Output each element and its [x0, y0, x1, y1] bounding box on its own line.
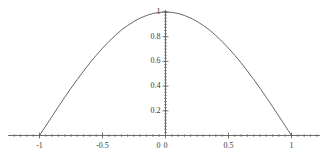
x-tick-label: 1 [290, 142, 294, 150]
x-tick-label: -1 [36, 142, 43, 150]
plot-canvas: -1-0.500.51 0.20.40.60.810 [0, 0, 329, 164]
y-tick-label: 0.4 [151, 82, 161, 90]
y-tick-label: 0.8 [151, 33, 161, 41]
y-tick-label: 0.6 [151, 57, 161, 65]
x-tick-label: 0.5 [224, 142, 234, 150]
plot-svg [0, 0, 329, 164]
x-tick-label: -0.5 [96, 142, 109, 150]
y-axis-origin-label: 0 [157, 142, 161, 150]
y-tick-label: 0.2 [151, 107, 161, 115]
y-tick-label: 1 [157, 8, 161, 16]
y-axis-minor-ticks [164, 12, 167, 136]
x-tick-label: 0 [164, 142, 168, 150]
